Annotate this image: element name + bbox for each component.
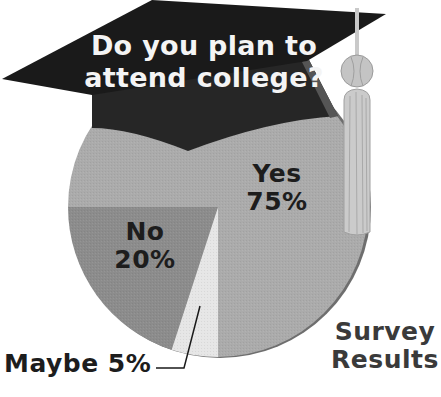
label-no-value: 20% [100,246,190,274]
label-maybe-text: Maybe 5% [4,349,151,378]
caption-line1: Survey [330,318,440,346]
survey-results-caption: Survey Results [330,318,440,374]
chart-title: Do you plan to attend college? [84,30,324,95]
caption-line2: Results [330,346,440,374]
label-no-name: No [100,218,190,246]
label-yes-value: 75% [232,188,322,216]
label-no: No 20% [100,218,190,274]
label-yes-name: Yes [232,160,322,188]
tassel [341,8,373,235]
label-yes: Yes 75% [232,160,322,216]
chart-title-line2: attend college? [84,62,324,94]
chart-title-line1: Do you plan to [84,30,324,62]
label-maybe: Maybe 5% [4,350,151,378]
